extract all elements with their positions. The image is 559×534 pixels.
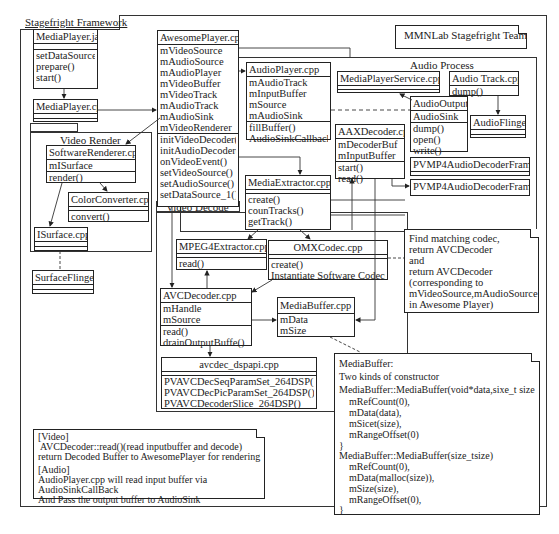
connector-lines bbox=[0, 0, 559, 534]
